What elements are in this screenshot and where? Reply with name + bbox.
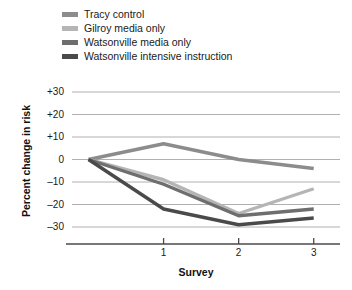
x-axis-tick-label: 2 — [229, 247, 249, 258]
y-axis-tick-label: +30 — [30, 86, 64, 97]
x-axis-tick-label: 3 — [304, 247, 324, 258]
legend-swatch-icon — [62, 40, 78, 45]
x-axis-title-text: Survey — [178, 266, 213, 278]
series-line — [89, 160, 314, 214]
x-axis-tick-label: 1 — [154, 247, 174, 258]
legend-item-watsonville-intensive-instruction: Watsonville intensive instruction — [62, 50, 342, 63]
legend-swatch-icon — [62, 26, 78, 31]
y-axis-tick-label: 0 — [30, 154, 64, 165]
legend-swatch-icon — [62, 12, 78, 17]
legend-item-gilroy-media-only: Gilroy media only — [62, 22, 342, 35]
series-line — [89, 144, 314, 169]
legend-swatch-icon — [62, 54, 78, 59]
legend-item-tracy-control: Tracy control — [62, 8, 342, 21]
legend-label: Watsonville intensive instruction — [84, 51, 232, 62]
y-axis-tick-label: +20 — [30, 109, 64, 120]
chart-legend: Tracy control Gilroy media only Watsonvi… — [62, 8, 342, 64]
y-axis-tick-label: +10 — [30, 131, 64, 142]
y-axis-tick-label: –10 — [30, 176, 64, 187]
legend-label: Tracy control — [84, 9, 144, 20]
y-axis-title: Percent change in risk — [8, 0, 20, 96]
legend-label: Gilroy media only — [84, 23, 165, 34]
legend-label: Watsonville media only — [84, 37, 191, 48]
y-axis-tick-label: –20 — [30, 199, 64, 210]
x-axis-title: Survey — [0, 266, 352, 278]
y-axis-tick-label: –30 — [30, 221, 64, 232]
legend-item-watsonville-media-only: Watsonville media only — [62, 36, 342, 49]
risk-change-line-chart: Tracy control Gilroy media only Watsonvi… — [0, 0, 352, 290]
